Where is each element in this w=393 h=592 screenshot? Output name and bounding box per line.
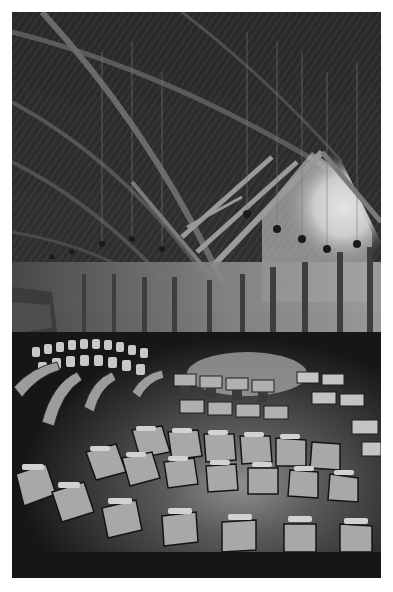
foreground-shadow <box>12 552 381 578</box>
chamber-illustration <box>12 12 381 578</box>
chamber-photograph <box>12 12 381 578</box>
